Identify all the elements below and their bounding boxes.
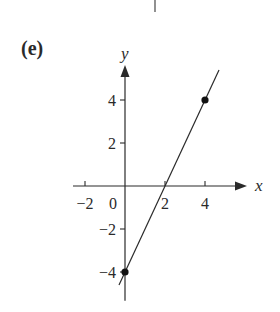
axes: xy bbox=[73, 44, 263, 301]
x-axis-arrow-icon bbox=[235, 182, 247, 191]
figure: (e) xy −224042−2−4 bbox=[0, 0, 280, 312]
panel-label: (e) bbox=[21, 37, 43, 60]
y-tick-label: 2 bbox=[108, 135, 116, 152]
y-axis-label: y bbox=[119, 44, 129, 63]
x-tick-label: −2 bbox=[76, 195, 93, 212]
y-tick-label: 4 bbox=[108, 92, 116, 109]
x-axis-label: x bbox=[254, 176, 263, 195]
x-tick-label: 4 bbox=[201, 195, 209, 212]
data-point-dot bbox=[121, 268, 128, 275]
y-tick-label: −2 bbox=[99, 221, 116, 238]
x-tick-label: 2 bbox=[161, 195, 169, 212]
y-axis-arrow-icon bbox=[121, 65, 130, 77]
data-point-dot bbox=[201, 96, 208, 103]
origin-label: 0 bbox=[109, 195, 117, 212]
line-graph: (e) xy −224042−2−4 bbox=[0, 0, 280, 312]
y-tick-label: −4 bbox=[99, 264, 116, 281]
